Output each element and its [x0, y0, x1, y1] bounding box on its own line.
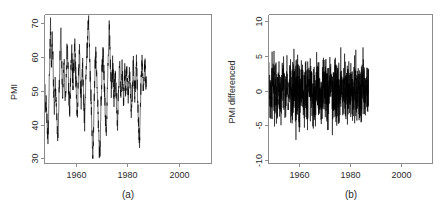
panel-b-pmi-differenced: -10-50510 196019802000 PMI differenced (…	[221, 0, 442, 211]
panel-a-caption: (a)	[122, 189, 134, 200]
pmi-level-line	[45, 16, 147, 159]
panel-a-y-axis-title: PMI	[9, 84, 19, 100]
panel-a-plot-area	[45, 16, 147, 159]
panel-b-caption: (b)	[345, 189, 357, 200]
panel-b-y-tick-labels: -10-50510	[254, 16, 264, 167]
x-tick-label-2000: 2000	[169, 170, 189, 180]
panel-a-pmi-level: 3040506070 196019802000 PMI (a)	[0, 0, 221, 211]
pmi-differenced-line	[269, 47, 369, 140]
y-tick-label-40: 40	[30, 120, 40, 130]
y-tick-label-70: 70	[30, 18, 40, 28]
x-tick-label-1960: 1960	[289, 170, 309, 180]
x-tick-label-1960: 1960	[66, 170, 86, 180]
y-tick-label-10: 10	[254, 16, 264, 26]
y-tick-label-5: 5	[254, 54, 264, 59]
x-tick-label-1980: 1980	[117, 170, 137, 180]
y-tick-label--5: -5	[254, 121, 264, 129]
panel-b-x-ticks	[300, 164, 402, 168]
y-tick-label-60: 60	[30, 52, 40, 62]
y-tick-label-50: 50	[30, 86, 40, 96]
panel-b-svg: -10-50510 196019802000 PMI differenced (…	[221, 0, 442, 211]
x-tick-label-1980: 1980	[340, 170, 360, 180]
panel-a-svg: 3040506070 196019802000 PMI (a)	[0, 0, 221, 211]
panel-b-x-tick-labels: 196019802000	[289, 170, 411, 180]
y-tick-label-30: 30	[30, 153, 40, 163]
panel-a-x-ticks	[77, 164, 180, 168]
y-tick-label--10: -10	[254, 154, 264, 167]
panel-a-x-tick-labels: 196019802000	[66, 170, 189, 180]
figure-container: 3040506070 196019802000 PMI (a) -10-5051…	[0, 0, 443, 211]
panel-b-y-axis-title: PMI differenced	[227, 61, 237, 124]
panel-a-y-ticks	[41, 24, 45, 159]
y-tick-label-0: 0	[254, 89, 264, 94]
panel-b-plot-area	[269, 47, 369, 140]
panel-b-y-ticks	[265, 22, 269, 161]
x-tick-label-2000: 2000	[391, 170, 411, 180]
panel-a-y-tick-labels: 3040506070	[30, 18, 40, 163]
